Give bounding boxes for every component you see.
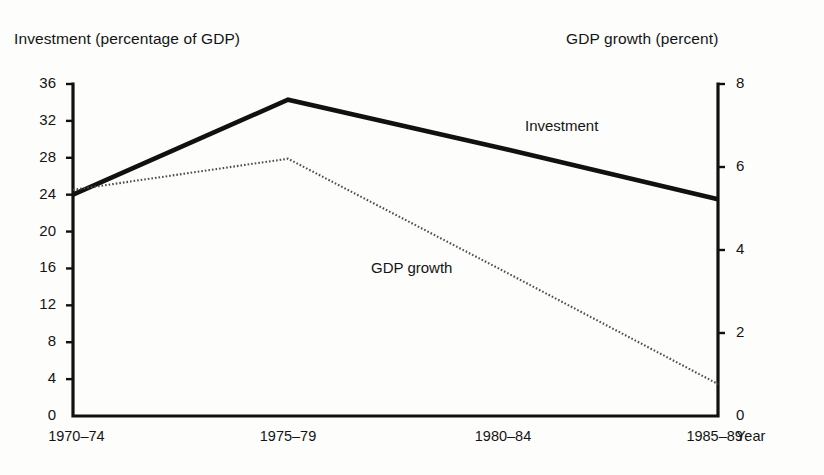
left-axis-tick-label: 20 [22, 222, 56, 239]
left-axis-tick-label: 32 [22, 111, 56, 128]
left-axis-tick-label: 0 [22, 406, 56, 423]
x-axis-tick-label: 1985–89 [686, 428, 742, 444]
x-axis-tick-label: 1970–74 [48, 428, 104, 444]
left-axis-tick-label: 16 [22, 258, 56, 275]
x-axis-end-label: Year [736, 428, 765, 444]
right-axis-tick-label: 2 [736, 323, 744, 340]
left-axis-tick-label: 8 [22, 332, 56, 349]
left-axis-tick-label: 4 [22, 369, 56, 386]
chart-figure: Investment (percentage of GDP) GDP growt… [0, 0, 824, 475]
axis-frame [73, 84, 718, 416]
series-annotation-investment: Investment [525, 117, 598, 134]
right-axis-tick-label: 6 [736, 157, 744, 174]
right-axis-tick-label: 0 [736, 406, 744, 423]
left-axis-tick-label: 24 [22, 185, 56, 202]
series-annotation-gdp-growth: GDP growth [371, 259, 452, 276]
right-axis-tick-label: 4 [736, 240, 744, 257]
left-axis-tick-label: 36 [22, 74, 56, 91]
x-axis-tick-label: 1980–84 [475, 428, 531, 444]
x-axis-tick-label: 1975–79 [260, 428, 316, 444]
left-axis-tick-label: 12 [22, 295, 56, 312]
left-axis-tick-label: 28 [22, 148, 56, 165]
plot-area [0, 0, 824, 475]
series-line-investment [73, 100, 718, 200]
right-axis-tick-label: 8 [736, 74, 744, 91]
